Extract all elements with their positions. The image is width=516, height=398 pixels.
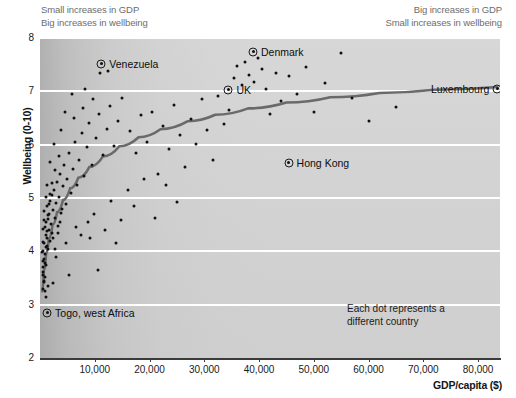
data-point (58, 195, 61, 198)
y-tick-label-6: 6 (4, 140, 34, 150)
data-point (134, 151, 137, 154)
data-point (244, 61, 247, 64)
y-tick-label-8: 8 (4, 33, 34, 43)
data-point (49, 192, 52, 195)
highlight-label-venezuela: Venezuela (109, 58, 158, 70)
data-point (236, 64, 239, 67)
data-point (54, 169, 57, 172)
y-tick-label-5: 5 (4, 193, 34, 203)
data-point (52, 237, 55, 240)
data-point (103, 229, 106, 232)
data-point (75, 226, 78, 229)
data-point (50, 182, 53, 185)
data-point (46, 218, 49, 221)
data-point (217, 94, 220, 97)
data-point (43, 290, 46, 293)
data-point (71, 167, 74, 170)
annotation-top-right-line1: Big increases in GDP (385, 4, 502, 17)
x-tick-label-60000: 60,000 (353, 364, 384, 375)
data-point (99, 71, 102, 74)
data-point (83, 87, 86, 90)
data-point (260, 67, 263, 70)
data-point (47, 214, 50, 217)
data-point (109, 105, 112, 108)
highlight-label-denmark: Denmark (261, 46, 304, 58)
data-point (51, 231, 54, 234)
data-point (165, 183, 168, 186)
data-point (274, 71, 277, 74)
data-point (63, 163, 66, 166)
x-tick-60000 (369, 358, 370, 362)
data-point (65, 242, 68, 245)
data-point (48, 199, 51, 202)
y-tick-label-2: 2 (4, 353, 34, 363)
data-point (120, 219, 123, 222)
data-point (85, 146, 88, 149)
data-point (129, 130, 132, 133)
annotation-top-left-line2: Big increases in wellbeing (41, 17, 148, 30)
data-point (395, 106, 398, 109)
data-point (112, 144, 115, 147)
data-point (46, 285, 49, 288)
data-point (116, 119, 119, 122)
data-point (178, 134, 181, 137)
data-point (45, 246, 48, 249)
data-point (57, 155, 60, 158)
data-point (296, 93, 299, 96)
x-tick-20000 (150, 358, 151, 362)
data-point (78, 158, 81, 161)
x-tick-50000 (314, 358, 315, 362)
data-point (367, 119, 370, 122)
footnote-line1: Each dot represents a (347, 302, 445, 315)
highlight-label-uk: UK (236, 84, 251, 96)
highlight-marker-venezuela (97, 59, 106, 68)
x-tick-label-10000: 10,000 (79, 364, 110, 375)
data-point (252, 80, 255, 83)
data-point (195, 142, 198, 145)
data-point (257, 57, 260, 60)
data-point (189, 118, 192, 121)
data-point (50, 222, 53, 225)
data-point (49, 239, 52, 242)
data-point (60, 207, 63, 210)
data-point (56, 231, 59, 234)
data-point (76, 183, 79, 186)
data-point (151, 110, 154, 113)
x-tick-70000 (423, 358, 424, 362)
data-point (89, 237, 92, 240)
data-point (42, 266, 45, 269)
highlight-marker-uk (224, 85, 233, 94)
x-tick-label-70000: 70,000 (408, 364, 439, 375)
annotation-top-left-line1: Small increases in GDP (41, 4, 148, 17)
data-point (105, 127, 108, 130)
data-point (91, 98, 94, 101)
data-point (121, 96, 124, 99)
data-point (96, 269, 99, 272)
data-point (184, 166, 187, 169)
data-point (54, 202, 57, 205)
data-point (81, 107, 84, 110)
data-point (53, 142, 56, 145)
data-point (53, 217, 56, 220)
data-point (288, 75, 291, 78)
highlight-label-togo-west-africa: Togo, west Africa (55, 307, 134, 319)
data-point (143, 178, 146, 181)
data-point (248, 74, 251, 77)
data-point (126, 189, 129, 192)
highlight-marker-luxembourg (493, 84, 500, 93)
data-point (80, 131, 83, 134)
data-point (42, 270, 45, 273)
data-point (304, 66, 307, 69)
y-tick-label-4: 4 (4, 246, 34, 256)
annotation-top-left: Small increases in GDP Big increases in … (41, 4, 148, 29)
highlight-marker-togo-west-africa (43, 308, 52, 317)
data-point (323, 82, 326, 85)
data-point (87, 221, 90, 224)
data-point (79, 234, 82, 237)
data-point (43, 275, 46, 278)
y-tick-label-3: 3 (4, 300, 34, 310)
footnote-each-dot: Each dot represents a different country (347, 302, 445, 328)
data-point (52, 282, 55, 285)
data-point (64, 203, 67, 206)
x-axis-line (40, 358, 501, 360)
